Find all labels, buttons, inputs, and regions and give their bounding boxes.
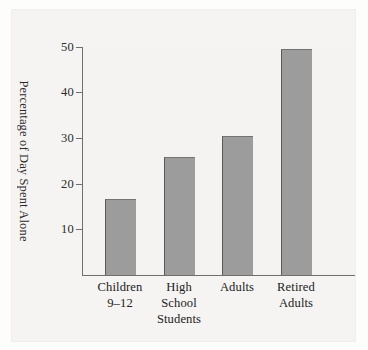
y-tick-label-40: 40 <box>48 86 74 99</box>
y-tick-50 <box>76 47 83 48</box>
bar-children-9-12 <box>105 199 136 275</box>
y-tick-40 <box>76 92 83 93</box>
x-category-line: School <box>136 295 222 311</box>
x-category-line: Retired <box>253 279 339 295</box>
x-category-line: Students <box>136 311 222 327</box>
y-tick-20 <box>76 184 83 185</box>
y-tick-label-50: 50 <box>48 41 74 54</box>
bar-high-school-students <box>164 157 195 275</box>
bar-retired-adults <box>281 49 312 275</box>
x-axis-line <box>82 275 355 276</box>
y-tick-10 <box>76 229 83 230</box>
x-category-label-retired-adults: Retired Adults <box>253 279 339 311</box>
bar-adults <box>222 136 253 275</box>
y-axis-title: Percentage of Day Spent Alone <box>16 0 34 48</box>
y-tick-label-30: 30 <box>48 132 74 145</box>
y-tick-30 <box>76 138 83 139</box>
y-tick-label-10: 10 <box>48 223 74 236</box>
y-axis-title-text: Percentage of Day Spent Alone <box>16 48 31 274</box>
y-tick-label-20: 20 <box>48 178 74 191</box>
y-axis-line <box>82 47 83 276</box>
bar-chart-figure: 50 40 30 20 10 Percentage of Day Spent A… <box>0 0 368 350</box>
x-category-line: Adults <box>253 295 339 311</box>
